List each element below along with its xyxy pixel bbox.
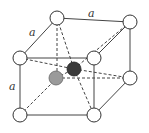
dash-dark-right	[74, 69, 130, 78]
unit-cell-diagram: a a a	[0, 0, 149, 133]
corner-atom	[87, 51, 101, 65]
corner-atom	[87, 108, 101, 122]
corner-atom	[13, 51, 27, 65]
edge-bottom-right	[94, 78, 130, 115]
dash-dark-top	[57, 18, 74, 69]
corner-atom	[13, 108, 27, 122]
dash-dark-bottom	[74, 69, 94, 115]
dark-atom	[67, 62, 81, 76]
edge-top-right	[94, 22, 130, 58]
label-vertical-edge: a	[9, 80, 16, 93]
corner-atom	[123, 15, 137, 29]
dash-dark-topright	[74, 22, 130, 69]
corner-atom	[123, 71, 137, 85]
label-top-edge: a	[88, 7, 95, 20]
gray-atom	[49, 71, 63, 85]
corner-atom	[50, 11, 64, 25]
dash-dark-left	[20, 58, 74, 69]
label-side-edge: a	[29, 26, 36, 39]
edge-top-left	[20, 18, 57, 58]
